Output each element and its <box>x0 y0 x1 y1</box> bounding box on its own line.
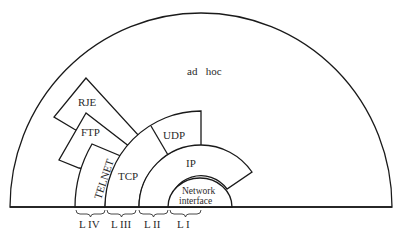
brace-l-iii <box>107 210 136 217</box>
layer-label-l-i: L I <box>177 218 190 230</box>
brace-l-ii <box>139 210 168 217</box>
brace-l-i <box>170 210 201 217</box>
protocol-layer-diagram: ad hoc RJE FTP TELNET TCP UDP IP Network… <box>0 0 403 242</box>
layer-braces <box>76 210 201 217</box>
network-interface-label-line1: Network <box>182 186 215 196</box>
udp-label: UDP <box>163 129 185 141</box>
brace-l-iv <box>76 210 105 217</box>
network-interface-label-line2: interface <box>179 196 212 206</box>
layer-label-l-iii: L III <box>111 218 131 230</box>
layer-label-l-iv: L IV <box>79 218 100 230</box>
rje-label: RJE <box>78 96 97 108</box>
ad-hoc-label: ad hoc <box>187 65 222 77</box>
layer-label-l-ii: L II <box>144 218 161 230</box>
ip-label: IP <box>186 157 196 169</box>
ftp-label: FTP <box>81 126 100 138</box>
tcp-label: TCP <box>118 170 138 182</box>
